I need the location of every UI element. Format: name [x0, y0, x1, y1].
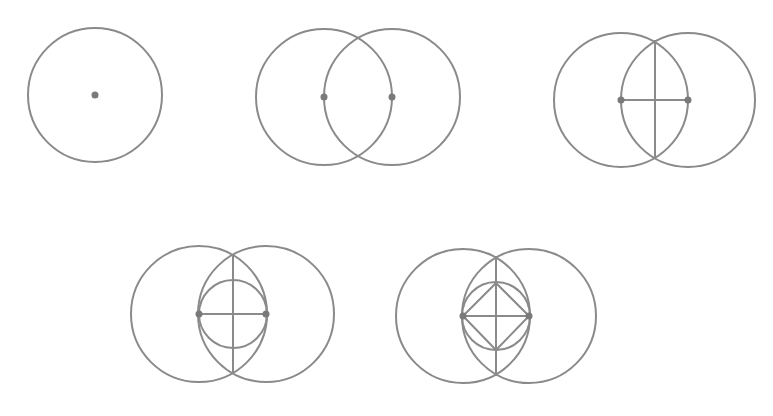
center-point — [685, 97, 692, 104]
center-point — [196, 311, 203, 318]
center-point — [526, 313, 533, 320]
center-point — [263, 311, 270, 318]
construction-step-5-vesica-with-inscribed-square — [396, 249, 596, 383]
construction-diagram — [0, 0, 773, 416]
construction-step-4-vesica-with-inscribed-circle — [131, 246, 334, 382]
center-point — [389, 94, 396, 101]
construction-step-1-single-circle — [28, 28, 162, 162]
center-point — [92, 92, 99, 99]
construction-step-3-vesica-with-axes — [554, 33, 755, 167]
center-point — [321, 94, 328, 101]
center-point — [618, 97, 625, 104]
construction-step-2-vesica-piscis — [256, 29, 460, 165]
diagram-canvas — [0, 0, 773, 416]
center-point — [460, 313, 467, 320]
